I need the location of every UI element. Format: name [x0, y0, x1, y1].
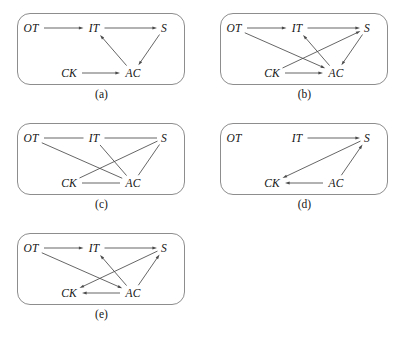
edge-S-AC [343, 35, 362, 63]
arrowhead-OT-AC [117, 285, 122, 288]
node-label-s: S [161, 242, 167, 254]
node-label-ot: OT [23, 242, 38, 254]
node-label-it: IT [89, 242, 100, 254]
arrowhead-IT-S [355, 137, 360, 140]
node-label-ck: CK [264, 177, 280, 189]
node-label-it: IT [89, 22, 100, 34]
edge-IT-AC [100, 145, 127, 176]
node-label-ac: AC [125, 67, 140, 79]
edge-CK-S [80, 141, 158, 178]
node-label-it: IT [89, 132, 100, 144]
arrowhead-S-CK [80, 285, 85, 288]
edge-CK-S [283, 33, 358, 68]
arrowhead-CK-AC [318, 72, 323, 75]
arrowhead-AC-CK [82, 292, 87, 295]
edge-S-CK [83, 251, 158, 286]
arrowhead-OT-AC [320, 65, 325, 68]
node-label-it: IT [292, 132, 303, 144]
node-label-ot: OT [23, 132, 38, 144]
arrowhead-OT-IT [79, 247, 84, 250]
node-label-s: S [364, 132, 370, 144]
graph-panel-d: OTITSCKAC(d) [203, 110, 406, 220]
node-label-ck: CK [61, 67, 77, 79]
edge-AC-S [341, 148, 360, 176]
edge-AC-IT [103, 38, 127, 66]
arrowhead-IT-S [152, 27, 157, 30]
node-label-ac: AC [125, 287, 140, 299]
node-label-ck: CK [264, 67, 280, 79]
arrowhead-AC-S [156, 255, 160, 260]
node-label-ac: AC [328, 67, 343, 79]
panel-edges-e [17, 233, 185, 305]
panel-edges-c [17, 123, 185, 195]
panel-caption-e: (e) [0, 308, 203, 320]
graph-panel-a: OTITSCKAC(a) [0, 0, 203, 110]
node-label-s: S [364, 22, 370, 34]
panel-caption-b: (b) [203, 88, 406, 100]
panel-edges-d [220, 123, 388, 195]
arrowhead-OT-IT [79, 27, 84, 30]
edge-OT-AC [245, 33, 322, 67]
arrowhead-OT-IT [282, 27, 287, 30]
arrowhead-IT-S [152, 247, 157, 250]
node-label-s: S [161, 132, 167, 144]
panel-edges-a [17, 13, 185, 85]
arrowhead-AC-CK [285, 182, 290, 185]
node-label-ac: AC [328, 177, 343, 189]
figure-graph-panels: OTITSCKAC(a)OTITSCKAC(b)OTITSCKAC(c)OTIT… [0, 0, 406, 346]
graph-panel-e: OTITSCKAC(e) [0, 220, 203, 330]
node-label-it: IT [292, 22, 303, 34]
edge-OT-AC [42, 253, 119, 287]
edge-S-AC [140, 35, 159, 63]
node-label-ot: OT [23, 22, 38, 34]
edge-S-AC [138, 145, 159, 176]
graph-panel-b: OTITSCKAC(b) [203, 0, 406, 110]
arrowhead-IT-S [355, 27, 360, 30]
arrowhead-S-AC [341, 61, 345, 66]
arrowhead-CK-S [356, 31, 361, 34]
panel-grid: OTITSCKAC(a)OTITSCKAC(b)OTITSCKAC(c)OTIT… [0, 0, 406, 330]
arrowhead-S-AC [138, 61, 142, 66]
node-label-ck: CK [61, 287, 77, 299]
panel-caption-d: (d) [203, 198, 406, 210]
arrowhead-S-CK [283, 175, 288, 178]
node-label-ot: OT [226, 132, 241, 144]
graph-panel-c: OTITSCKAC(c) [0, 110, 203, 220]
panel-caption-a: (a) [0, 88, 203, 100]
node-label-s: S [161, 22, 167, 34]
node-label-ac: AC [125, 177, 140, 189]
node-label-ck: CK [61, 177, 77, 189]
panel-caption-c: (c) [0, 198, 203, 210]
arrowhead-CK-AC [115, 72, 120, 75]
edge-S-CK [286, 141, 361, 176]
panel-edges-b [220, 13, 388, 85]
arrowhead-AC-S [359, 145, 363, 150]
edge-OT-AC [42, 143, 122, 179]
node-label-ot: OT [226, 22, 241, 34]
edge-AC-S [138, 258, 157, 286]
